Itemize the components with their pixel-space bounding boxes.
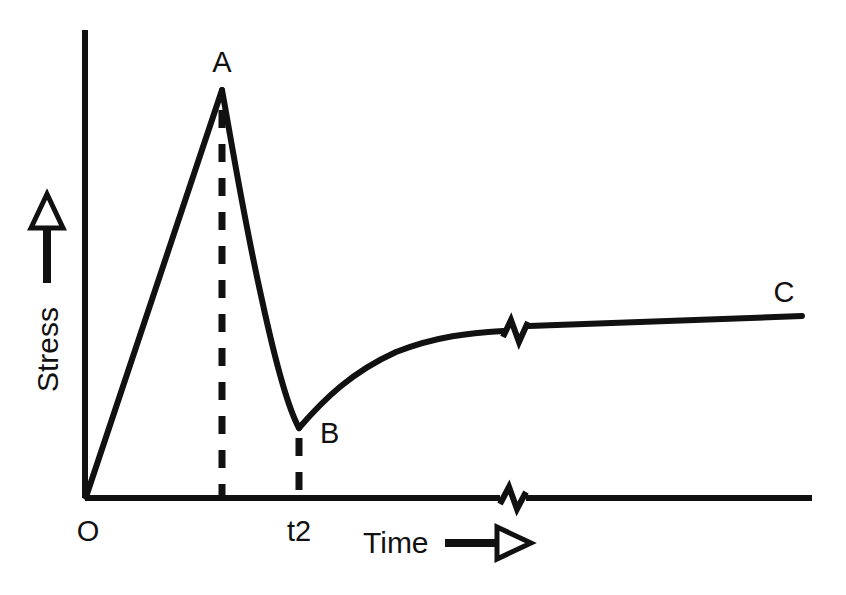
x-axis-break-icon [500, 487, 526, 509]
curve-recovery-break-c [529, 316, 802, 326]
time-arrow-icon [497, 527, 531, 559]
label-tick-t2: t2 [287, 515, 311, 547]
curve-relaxation-ab [222, 90, 299, 428]
curve-break-icon [503, 320, 528, 342]
curve-recovery-b-break [299, 331, 503, 428]
figure-root: A B C O t2 Time Stress [0, 0, 846, 595]
y-axis-title: Stress [31, 307, 64, 392]
stress-arrow-icon [31, 194, 63, 228]
curve-loading-oa [86, 90, 222, 497]
label-point-a: A [212, 46, 232, 78]
label-origin: O [77, 515, 100, 547]
label-point-b: B [320, 417, 339, 449]
x-axis-title: Time [363, 526, 429, 559]
label-point-c: C [774, 276, 795, 308]
stress-time-chart: A B C O t2 Time Stress [0, 0, 846, 595]
